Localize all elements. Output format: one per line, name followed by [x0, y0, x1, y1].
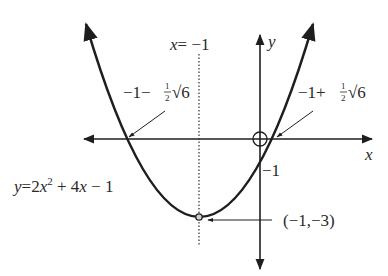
svg-text:−1−: −1−	[123, 83, 151, 102]
vertex-label: (−1,−3)	[283, 211, 335, 230]
parabola-diagram: x= −1 y x −1− 1 2 √6 −1+ 1 2 √6 −1 y=2x2…	[0, 0, 388, 276]
svg-text:2: 2	[341, 93, 346, 103]
right-root-label: −1+ 1 2 √6	[298, 81, 366, 103]
vertex-point	[196, 214, 202, 220]
y-axis-label: y	[266, 32, 276, 51]
x-axis-label: x	[364, 145, 373, 164]
svg-text:1: 1	[341, 81, 346, 91]
svg-text:1: 1	[165, 81, 170, 91]
y-intercept-label: −1	[262, 161, 280, 180]
svg-text:√6: √6	[348, 83, 366, 102]
svg-text:−1+: −1+	[298, 83, 326, 102]
left-root-label: −1− 1 2 √6	[123, 81, 190, 103]
svg-text:√6: √6	[172, 83, 190, 102]
left-root-leader	[129, 111, 165, 137]
axis-of-symmetry-label: x= −1	[169, 35, 209, 54]
svg-text:2: 2	[165, 93, 170, 103]
equation-label: y=2x2 + 4x − 1	[12, 175, 113, 196]
